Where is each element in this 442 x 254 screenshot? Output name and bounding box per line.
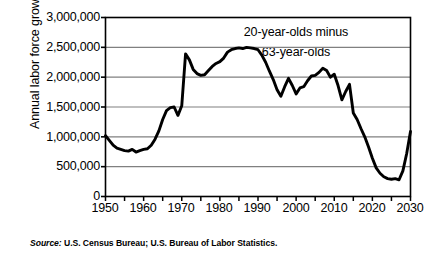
source-text: U.S. Census Bureau; U.S. Bureau of Labor… — [62, 238, 278, 248]
source-note: Source: U.S. Census Bureau; U.S. Bureau … — [30, 238, 277, 248]
chart-figure: Annual labor force growth 3,000,000 2,50… — [0, 0, 442, 254]
data-series-line — [106, 47, 411, 179]
source-label: Source: — [30, 238, 62, 248]
plot-area — [0, 0, 442, 254]
